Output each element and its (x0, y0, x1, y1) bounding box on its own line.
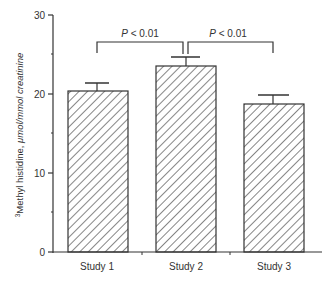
significance-bracket-1-2: P < 0.01 (97, 28, 183, 54)
y-axis: 30 20 10 0 (34, 10, 53, 258)
y-tick-10: 10 (34, 168, 46, 179)
x-label-study-2: Study 2 (169, 261, 203, 272)
bar-study-3 (244, 95, 304, 252)
x-axis: Study 1 Study 2 Study 3 (53, 252, 322, 272)
significance-bracket-2-3: P < 0.01 (188, 28, 273, 54)
x-label-study-3: Study 3 (257, 261, 291, 272)
y-tick-0: 0 (39, 247, 45, 258)
p-value-label-2: P < 0.01 (209, 28, 247, 39)
p-value-label-1: P < 0.01 (121, 28, 159, 39)
y-tick-30: 30 (34, 10, 46, 21)
bar-chart: 30 20 10 0 3Methyl histidine, μmol/mmol … (0, 0, 335, 282)
bar-study-1 (68, 83, 128, 252)
y-axis-label: 3Methyl histidine, μmol/mmol creatinine (14, 53, 25, 218)
x-label-study-1: Study 1 (80, 261, 114, 272)
bar-study-2 (156, 57, 216, 252)
y-tick-20: 20 (34, 89, 46, 100)
